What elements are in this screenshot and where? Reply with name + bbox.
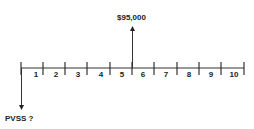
period-label: 3: [67, 70, 89, 79]
inflow-arrow-icon: [130, 26, 135, 68]
outflow-label: PVSS ?: [5, 114, 33, 123]
period-label: 6: [132, 70, 154, 79]
period-label: 10: [223, 70, 245, 79]
outflow-arrow-icon: [19, 68, 24, 110]
period-label: 8: [178, 70, 200, 79]
period-label: 4: [90, 70, 112, 79]
period-label: 7: [155, 70, 177, 79]
inflow-label: $95,000: [117, 13, 146, 22]
period-label: 1: [25, 70, 47, 79]
period-label: 5: [111, 70, 133, 79]
period-label: 2: [45, 70, 67, 79]
period-label: 9: [200, 70, 222, 79]
